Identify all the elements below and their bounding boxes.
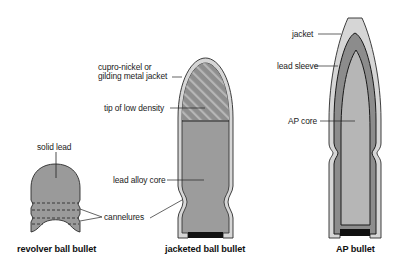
- label-jacket-line2: gilding metal jacket: [98, 71, 167, 81]
- label-ap-core: AP core: [288, 116, 317, 126]
- caption-revolver-ball-bullet: revolver ball bullet: [17, 244, 96, 254]
- label-jacket: jacket: [292, 29, 313, 39]
- label-cannelures-revolver: cannelures: [104, 212, 144, 222]
- label-lead-alloy-core: lead alloy core: [113, 175, 166, 185]
- caption-jacketed-ball-bullet: jacketed ball bullet: [165, 244, 245, 254]
- label-lead-sleeve: lead sleeve: [277, 61, 318, 71]
- label-tip-low-density: tip of low density: [104, 103, 164, 113]
- ap-bullet-shape: [314, 18, 381, 238]
- revolver-bullet-shape: [31, 152, 102, 232]
- label-solid-lead: solid lead: [37, 142, 71, 152]
- caption-ap-bullet: AP bullet: [336, 244, 375, 254]
- jacketed-bullet-shape: [150, 58, 233, 238]
- bullet-diagram: solid lead cannelures revolver ball bull…: [0, 0, 401, 271]
- diagram-graphics: [0, 0, 401, 271]
